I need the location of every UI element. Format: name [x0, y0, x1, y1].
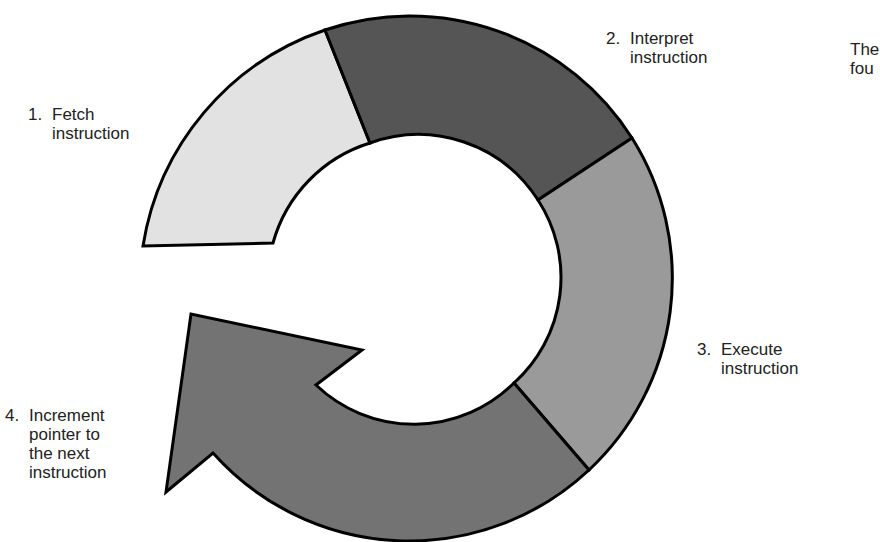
label-step-3: 3.Execute instruction — [697, 340, 798, 378]
label-step-2: 2.Interpret instruction — [606, 29, 707, 67]
instruction-cycle-diagram — [0, 0, 880, 542]
label-step-4: 4.Increment pointer to the next instruct… — [5, 406, 106, 482]
label-step-1: 1.Fetch instruction — [28, 105, 129, 143]
segment-fetch — [143, 30, 370, 246]
segment-increment-arrow — [166, 314, 589, 541]
caption-fragment: The fou — [850, 40, 879, 78]
